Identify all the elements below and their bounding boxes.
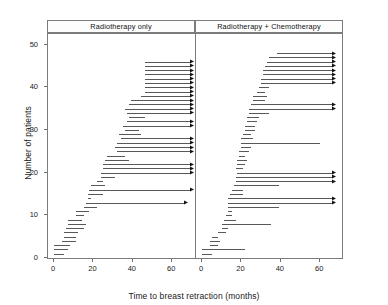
- event-interval: [68, 224, 86, 225]
- event-interval: [202, 249, 245, 250]
- censored-interval: [127, 113, 191, 114]
- censor-arrow-icon: [332, 51, 336, 55]
- censor-arrow-icon: [332, 175, 336, 179]
- event-interval: [239, 151, 249, 152]
- censor-arrow-icon: [332, 55, 336, 59]
- x-tick-label: 60: [307, 264, 331, 273]
- event-interval: [241, 138, 253, 139]
- censored-interval: [263, 70, 332, 71]
- event-interval: [210, 245, 218, 246]
- censored-interval: [237, 173, 332, 174]
- censor-arrow-icon: [332, 200, 336, 204]
- censor-arrow-icon: [332, 72, 336, 76]
- censor-arrow-icon: [190, 145, 194, 149]
- event-interval: [230, 194, 244, 195]
- event-interval: [54, 245, 70, 246]
- censor-arrow-icon: [332, 77, 336, 81]
- event-interval: [247, 117, 259, 118]
- event-interval: [202, 254, 212, 255]
- panel-title-radiotherapy-chemotherapy: Radiotherapy + Chemotherapy: [195, 20, 343, 33]
- event-interval: [64, 232, 78, 233]
- x-tick-label: 40: [120, 264, 144, 273]
- panel-radiotherapy-chemotherapy: [195, 33, 343, 259]
- censor-arrow-icon: [332, 106, 336, 110]
- event-interval: [76, 215, 84, 216]
- x-tick-label: 60: [159, 264, 183, 273]
- event-interval: [228, 207, 279, 208]
- censor-arrow-icon: [190, 166, 194, 170]
- x-tick-mark: [240, 259, 241, 262]
- event-interval: [241, 147, 251, 148]
- event-interval: [249, 113, 269, 114]
- event-interval: [88, 198, 92, 199]
- x-tick-mark: [92, 259, 93, 262]
- censored-interval: [117, 151, 190, 152]
- x-tick-mark: [319, 259, 320, 262]
- censored-interval: [267, 62, 333, 63]
- event-interval: [218, 232, 226, 233]
- event-interval: [239, 156, 245, 157]
- event-interval: [66, 228, 84, 229]
- event-interval: [129, 117, 145, 118]
- chart-figure: Number of patients 01020304050 Radiother…: [0, 0, 388, 305]
- censor-arrow-icon: [190, 64, 194, 68]
- censor-arrow-icon: [332, 68, 336, 72]
- x-axis-title: Time to breast retraction (months): [0, 291, 388, 301]
- censor-arrow-icon: [190, 171, 194, 175]
- event-interval: [101, 177, 115, 178]
- censor-arrow-icon: [190, 89, 194, 93]
- censor-arrow-icon: [332, 179, 336, 183]
- censor-arrow-icon: [190, 124, 194, 128]
- censor-arrow-icon: [190, 60, 194, 64]
- censored-interval: [269, 57, 333, 58]
- censored-interval: [121, 138, 190, 139]
- censor-arrow-icon: [190, 98, 194, 102]
- event-interval: [222, 228, 228, 229]
- event-interval: [232, 190, 244, 191]
- censored-interval: [145, 66, 191, 67]
- y-tick-label: 30: [16, 125, 38, 134]
- event-interval: [257, 92, 265, 93]
- event-interval: [210, 241, 220, 242]
- event-interval: [64, 237, 76, 238]
- censored-interval: [145, 87, 191, 88]
- censor-arrow-icon: [190, 188, 194, 192]
- censored-interval: [131, 100, 191, 101]
- x-tick-mark: [132, 259, 133, 262]
- event-interval: [259, 87, 269, 88]
- x-tick-label: 0: [189, 264, 213, 273]
- panel-title-radiotherapy-only: Radiotherapy only: [47, 20, 195, 33]
- censor-arrow-icon: [332, 81, 336, 85]
- censored-interval: [145, 83, 191, 84]
- censor-arrow-icon: [190, 72, 194, 76]
- event-interval: [54, 249, 68, 250]
- censor-arrow-icon: [190, 111, 194, 115]
- event-interval: [245, 126, 255, 127]
- y-tick-label: 50: [16, 40, 38, 49]
- event-interval: [97, 181, 103, 182]
- event-interval: [76, 211, 90, 212]
- censored-interval: [101, 173, 190, 174]
- censor-arrow-icon: [190, 149, 194, 153]
- event-interval: [84, 207, 98, 208]
- x-tick-mark: [171, 259, 172, 262]
- censor-arrow-icon: [190, 136, 194, 140]
- x-tick-mark: [53, 259, 54, 262]
- censor-arrow-icon: [332, 102, 336, 106]
- event-interval: [243, 134, 251, 135]
- x-tick-mark: [201, 259, 202, 262]
- censor-arrow-icon: [184, 200, 188, 204]
- event-interval: [222, 224, 271, 225]
- censored-interval: [236, 181, 333, 182]
- censored-interval: [103, 164, 190, 165]
- x-tick-label: 20: [80, 264, 104, 273]
- censor-arrow-icon: [190, 94, 194, 98]
- event-interval: [228, 211, 232, 212]
- y-tick-label: 0: [16, 253, 38, 262]
- event-interval: [68, 220, 82, 221]
- censored-interval: [129, 104, 191, 105]
- censor-arrow-icon: [190, 102, 194, 106]
- censored-interval: [89, 190, 190, 191]
- censored-interval: [123, 126, 190, 127]
- event-interval: [224, 220, 236, 221]
